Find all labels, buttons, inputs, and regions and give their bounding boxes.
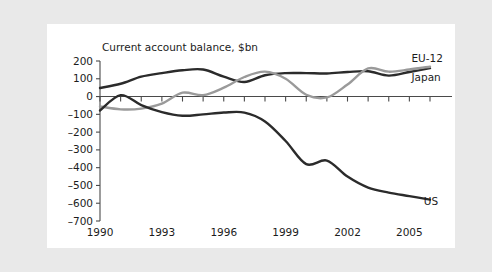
y-axis-ticks: 2001000–100–200–300–400–500–600–700 <box>68 55 100 227</box>
series-label-us: US <box>424 195 439 207</box>
axis-lines <box>100 61 452 221</box>
figure-container: Current account balance, $bn 2001000–100… <box>0 0 492 272</box>
x-tick-label: 1990 <box>87 226 114 238</box>
chart-title: Current account balance, $bn <box>102 41 258 53</box>
x-tick-label: 1996 <box>210 226 237 238</box>
series-lines <box>100 67 430 200</box>
y-tick-label: 100 <box>73 72 93 84</box>
y-tick-label: –200 <box>68 126 93 138</box>
x-tick-label: 1999 <box>272 226 299 238</box>
y-tick-label: –300 <box>68 143 93 155</box>
y-tick-label: –500 <box>68 179 93 191</box>
y-tick-label: 0 <box>86 90 93 102</box>
chart-panel: Current account balance, $bn 2001000–100… <box>47 24 455 248</box>
x-tick-label: 2002 <box>334 226 361 238</box>
series-labels: EU-12JapanUS <box>410 52 442 208</box>
chart-title-group: Current account balance, $bn <box>102 41 258 53</box>
x-tick-label: 1993 <box>149 226 176 238</box>
y-tick-label: –400 <box>68 161 93 173</box>
y-tick-label: –700 <box>68 215 93 227</box>
line-chart: Current account balance, $bn 2001000–100… <box>47 24 455 248</box>
series-label-eu-12: EU-12 <box>411 52 442 64</box>
y-tick-label: –100 <box>68 108 93 120</box>
series-label-japan: Japan <box>410 71 440 83</box>
x-tick-label: 2005 <box>396 226 423 238</box>
y-tick-label: 200 <box>73 55 93 67</box>
y-tick-label: –600 <box>68 197 93 209</box>
series-line-us <box>100 95 430 200</box>
